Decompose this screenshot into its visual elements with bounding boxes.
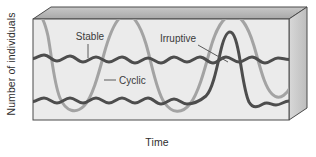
population-growth-figure: Number of individuals Time	[0, 0, 316, 157]
annotation-irruptive: Irruptive	[160, 33, 197, 44]
x-axis-label-text: Time	[145, 136, 168, 148]
x-axis-label: Time	[22, 136, 292, 148]
annotation-cyclic: Cyclic	[119, 75, 146, 86]
panel-right-face	[289, 7, 307, 120]
y-axis-label: Number of individuals	[0, 0, 22, 128]
annotation-stable: Stable	[76, 31, 105, 42]
y-axis-label-text: Number of individuals	[5, 12, 17, 115]
plot-panel: Stable Cyclic Irruptive	[22, 2, 316, 136]
panel-top-face	[33, 7, 307, 19]
